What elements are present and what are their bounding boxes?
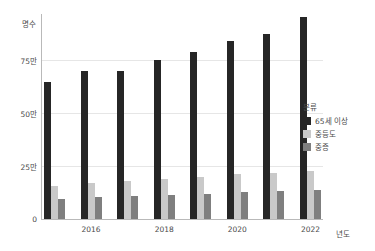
legend-items: 65세 이상중등도중증 (303, 115, 348, 152)
bar-groups (42, 14, 323, 219)
y-axis-title: 명수 (22, 18, 36, 29)
legend: 분류 65세 이상중등도중증 (303, 101, 348, 154)
bar-group (81, 14, 102, 219)
bar (161, 179, 168, 219)
legend-item[interactable]: 중등도 (303, 128, 348, 139)
bar-group (44, 14, 65, 219)
x-axis-line (41, 219, 323, 220)
bar (124, 181, 131, 219)
legend-swatch-icon (303, 143, 311, 151)
bar (270, 173, 277, 219)
bar (204, 194, 211, 219)
legend-item[interactable]: 65세 이상 (303, 115, 348, 126)
legend-item-label: 중등도 (315, 128, 336, 139)
bar (263, 34, 270, 219)
x-tick-label: 2016 (82, 225, 101, 234)
bar (307, 171, 314, 219)
bar-group (117, 14, 138, 219)
bar (241, 192, 248, 219)
legend-item[interactable]: 중증 (303, 141, 348, 152)
bar (234, 174, 241, 219)
y-tick-label: 75만 (20, 55, 37, 66)
x-axis-title: 년도 (336, 228, 350, 239)
plot-area: 025만50만75만 2016201820202022 (42, 14, 323, 219)
y-tick-label: 0 (32, 215, 37, 224)
x-tick-label: 2022 (301, 225, 320, 234)
bar (154, 60, 161, 219)
bar (51, 186, 58, 219)
bar (131, 196, 138, 219)
bar (227, 41, 234, 219)
bar (81, 71, 88, 219)
y-tick-label: 50만 (20, 108, 37, 119)
bar-group (154, 14, 175, 219)
bar (314, 190, 321, 219)
bar (95, 197, 102, 219)
bar (277, 191, 284, 219)
bar-group (190, 14, 211, 219)
y-tick-label: 25만 (20, 161, 37, 172)
bar (190, 52, 197, 219)
legend-swatch-icon (303, 130, 311, 138)
bar (44, 82, 51, 219)
legend-title: 분류 (303, 101, 348, 112)
legend-item-label: 중증 (315, 141, 329, 152)
bar (117, 71, 124, 219)
bar (168, 195, 175, 219)
legend-swatch-icon (303, 117, 311, 125)
legend-item-label: 65세 이상 (315, 115, 348, 126)
bar (58, 199, 65, 219)
bar (88, 183, 95, 219)
bar (197, 177, 204, 219)
bar-group (227, 14, 248, 219)
bar-group (263, 14, 284, 219)
x-tick-label: 2020 (228, 225, 247, 234)
bar-chart: 명수 년도 025만50만75만 2016201820202022 분류 65세… (0, 0, 375, 251)
x-tick-label: 2018 (155, 225, 174, 234)
